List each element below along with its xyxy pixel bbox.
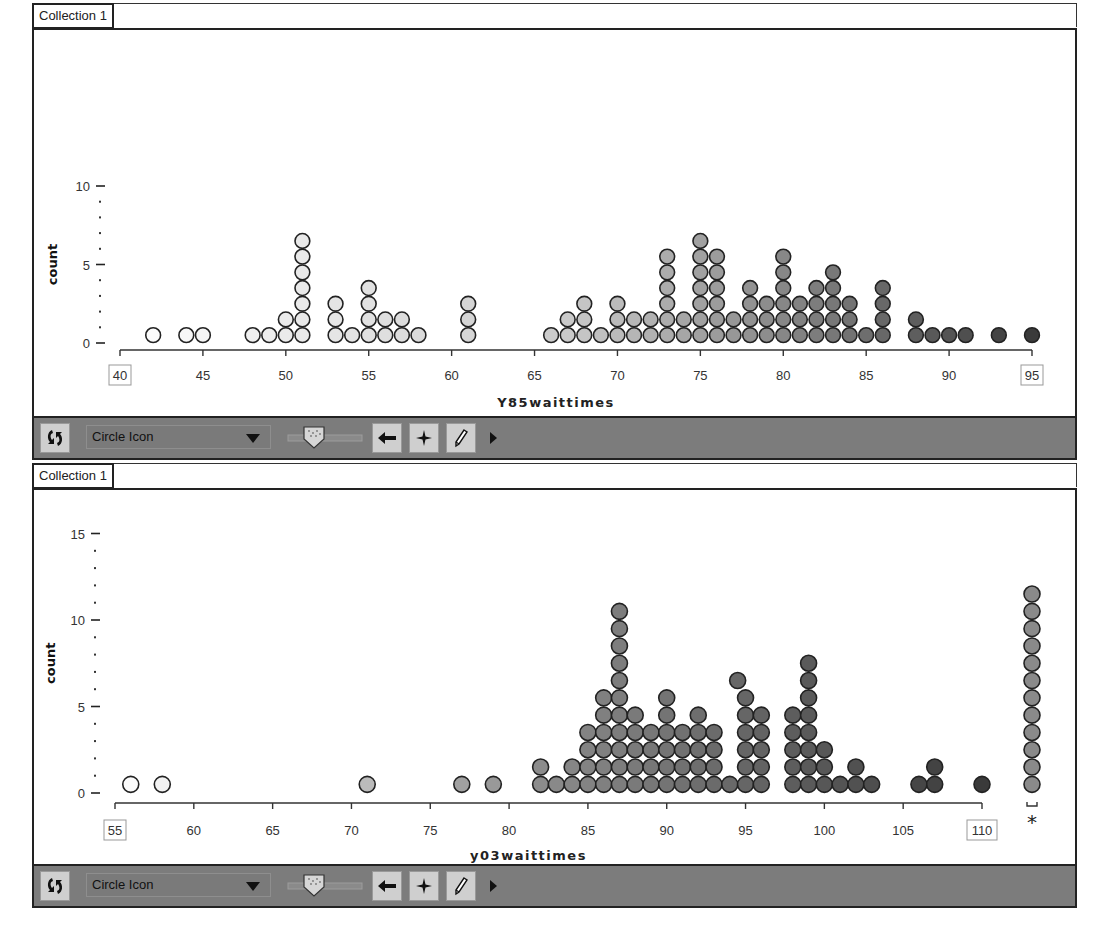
icon-type-select[interactable]: Circle Icon bbox=[86, 425, 271, 449]
data-point bbox=[676, 312, 691, 327]
rescale-icon bbox=[44, 875, 66, 897]
data-point bbox=[660, 296, 675, 311]
data-point bbox=[278, 312, 293, 327]
data-point bbox=[693, 249, 708, 264]
data-point bbox=[596, 690, 612, 706]
data-point bbox=[743, 328, 758, 343]
data-point bbox=[659, 707, 675, 723]
data-point bbox=[958, 328, 973, 343]
back-button[interactable] bbox=[372, 423, 402, 453]
data-point bbox=[245, 328, 260, 343]
data-point bbox=[580, 724, 596, 740]
x-tick-label: 75 bbox=[693, 368, 707, 383]
data-point bbox=[690, 724, 706, 740]
point-size-slider[interactable] bbox=[286, 424, 366, 452]
add-point-button[interactable] bbox=[409, 871, 439, 901]
data-point bbox=[295, 281, 310, 296]
data-point bbox=[776, 281, 791, 296]
data-point bbox=[693, 312, 708, 327]
data-point bbox=[394, 312, 409, 327]
icon-type-select[interactable]: Circle Icon bbox=[86, 873, 271, 897]
x-tick-label: 100 bbox=[814, 823, 836, 838]
collection-tab[interactable]: Collection 1 bbox=[32, 3, 114, 29]
data-point bbox=[154, 776, 170, 792]
rescale-button[interactable] bbox=[40, 423, 70, 453]
data-point bbox=[611, 724, 627, 740]
x-tick-label: 105 bbox=[892, 823, 914, 838]
data-point bbox=[826, 265, 841, 280]
data-point bbox=[710, 265, 725, 280]
add-point-button[interactable] bbox=[409, 423, 439, 453]
data-point bbox=[730, 673, 746, 689]
data-point bbox=[826, 296, 841, 311]
play-right-icon[interactable] bbox=[490, 432, 497, 444]
y-tick-label: 10 bbox=[76, 179, 90, 194]
rescale-icon bbox=[44, 427, 66, 449]
x-tick-label: 50 bbox=[279, 368, 293, 383]
data-point bbox=[461, 312, 476, 327]
data-point bbox=[611, 707, 627, 723]
data-point bbox=[660, 328, 675, 343]
data-point bbox=[262, 328, 277, 343]
plot-toolbar-bottom: Circle Icon bbox=[32, 864, 1077, 908]
data-point bbox=[295, 234, 310, 249]
data-point bbox=[693, 281, 708, 296]
data-point bbox=[593, 328, 608, 343]
x-tick-label: 65 bbox=[265, 823, 279, 838]
dot-plot-y85[interactable]: 0510count404550556065707580859095Y85wait… bbox=[34, 30, 1079, 420]
data-point bbox=[627, 707, 643, 723]
crosshair-icon bbox=[415, 877, 433, 895]
data-point bbox=[674, 776, 690, 792]
data-point bbox=[809, 312, 824, 327]
rescale-button[interactable] bbox=[40, 871, 70, 901]
dot-plot-y03[interactable]: 051015count556065707580859095100105110y0… bbox=[34, 490, 1079, 868]
pencil-icon bbox=[453, 428, 469, 448]
data-point bbox=[785, 707, 801, 723]
data-point bbox=[792, 296, 807, 311]
data-point bbox=[610, 296, 625, 311]
data-point bbox=[809, 296, 824, 311]
data-point bbox=[801, 673, 817, 689]
data-point bbox=[596, 742, 612, 758]
draw-button[interactable] bbox=[446, 871, 476, 901]
data-point bbox=[753, 724, 769, 740]
data-point bbox=[378, 312, 393, 327]
data-point bbox=[560, 312, 575, 327]
back-button[interactable] bbox=[372, 871, 402, 901]
dot-plot-panel-bottom: 051015count556065707580859095100105110y0… bbox=[32, 488, 1077, 866]
data-point bbox=[674, 759, 690, 775]
data-point bbox=[146, 328, 161, 343]
data-point bbox=[785, 724, 801, 740]
missing-data-point bbox=[1024, 707, 1040, 723]
slider-thumb bbox=[304, 427, 324, 448]
collection-tab[interactable]: Collection 1 bbox=[32, 463, 114, 489]
data-point bbox=[295, 249, 310, 264]
data-point bbox=[643, 724, 659, 740]
data-point bbox=[801, 707, 817, 723]
point-size-slider[interactable] bbox=[286, 872, 366, 900]
data-point bbox=[753, 707, 769, 723]
data-point bbox=[345, 328, 360, 343]
x-tick-label: 75 bbox=[423, 823, 437, 838]
data-point bbox=[809, 328, 824, 343]
data-point bbox=[911, 776, 927, 792]
data-point bbox=[722, 776, 738, 792]
data-point bbox=[627, 759, 643, 775]
data-point bbox=[690, 776, 706, 792]
data-point bbox=[826, 281, 841, 296]
y-axis-label: count bbox=[43, 643, 58, 684]
data-point bbox=[743, 296, 758, 311]
missing-data-point bbox=[1024, 603, 1040, 619]
play-right-icon[interactable] bbox=[490, 880, 497, 892]
data-point bbox=[759, 312, 774, 327]
data-point bbox=[753, 759, 769, 775]
data-point bbox=[611, 742, 627, 758]
draw-button[interactable] bbox=[446, 423, 476, 453]
data-point bbox=[611, 603, 627, 619]
data-point bbox=[927, 776, 943, 792]
missing-data-point bbox=[1024, 638, 1040, 654]
data-point bbox=[801, 690, 817, 706]
data-point bbox=[738, 776, 754, 792]
data-point bbox=[706, 724, 722, 740]
x-axis-label: y03waittimes bbox=[470, 848, 587, 863]
